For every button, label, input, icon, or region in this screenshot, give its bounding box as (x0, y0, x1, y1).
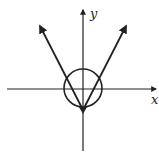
graph-diagram: y x (0, 0, 159, 153)
vertex-marker (79, 107, 87, 114)
v-left-arm (40, 26, 83, 110)
v-right-arm (83, 26, 126, 110)
y-axis-label: y (89, 6, 98, 21)
x-axis-label: x (151, 92, 159, 107)
